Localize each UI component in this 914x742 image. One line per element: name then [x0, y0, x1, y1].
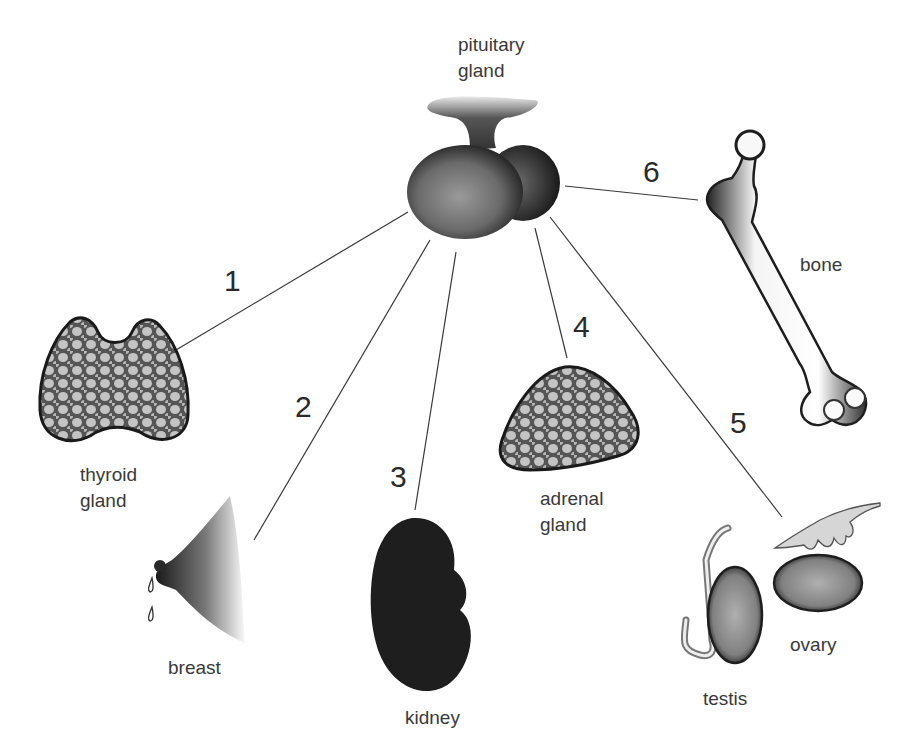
- adrenal-label-line2: gland: [540, 512, 587, 537]
- ovary-icon: [774, 503, 880, 611]
- diagram-canvas: [0, 0, 914, 742]
- pituitary-label-line2: gland: [458, 58, 505, 83]
- thyroid-label-line1: thyroid: [80, 462, 137, 487]
- connector-3-kidney: [415, 252, 456, 510]
- endocrine-diagram: pituitary gland thyroid gland breast kid…: [0, 0, 914, 742]
- kidney-icon: [371, 518, 471, 691]
- ovary-label: ovary: [790, 632, 836, 657]
- testis-icon: [684, 528, 762, 663]
- testis-label: testis: [703, 686, 747, 711]
- connector-number-4: 4: [573, 312, 590, 342]
- breast-icon: [149, 496, 245, 643]
- pituitary-gland-icon: [407, 97, 560, 239]
- connector-2-breast: [254, 240, 430, 540]
- connector-number-5: 5: [730, 408, 747, 438]
- thyroid-gland-icon: [40, 318, 188, 441]
- bone-icon: [707, 131, 866, 425]
- thyroid-label-line2: gland: [80, 488, 127, 513]
- adrenal-label-line1: adrenal: [540, 486, 603, 511]
- kidney-label: kidney: [405, 705, 460, 730]
- connector-number-3: 3: [390, 462, 407, 492]
- connector-number-2: 2: [295, 392, 312, 422]
- connector-number-1: 1: [224, 266, 241, 296]
- connector-lines: [176, 186, 782, 540]
- connector-4-adrenal: [535, 228, 567, 358]
- bone-label: bone: [800, 252, 842, 277]
- connector-6-bone: [565, 186, 698, 200]
- adrenal-gland-icon: [500, 367, 638, 470]
- pituitary-label-line1: pituitary: [458, 32, 525, 57]
- connector-1-thyroid: [176, 212, 408, 350]
- connector-number-6: 6: [643, 157, 660, 187]
- breast-label: breast: [168, 655, 221, 680]
